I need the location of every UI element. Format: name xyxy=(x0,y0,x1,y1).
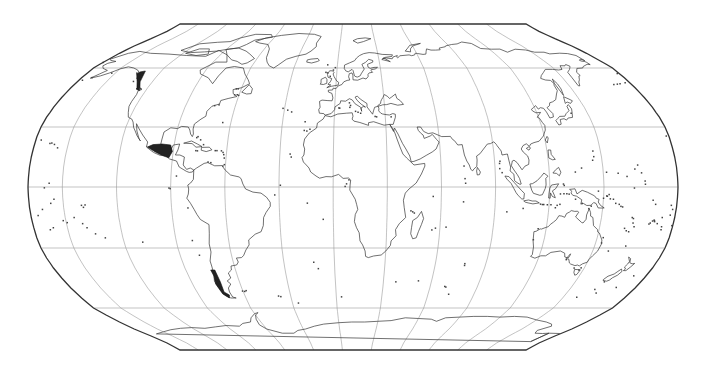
island-marker xyxy=(563,193,565,195)
island-marker xyxy=(613,199,615,201)
island-marker xyxy=(591,205,593,207)
coastline-ireland xyxy=(320,77,327,84)
island-marker xyxy=(566,259,568,261)
island-marker xyxy=(592,150,594,152)
island-marker xyxy=(214,105,216,107)
island-marker xyxy=(111,72,113,74)
island-marker xyxy=(661,226,663,228)
island-marker xyxy=(433,196,435,198)
coastline-new-zealand-south xyxy=(603,269,622,281)
highlight-southern-chile-coast xyxy=(211,270,230,298)
island-marker xyxy=(588,208,590,210)
island-marker xyxy=(604,281,606,283)
island-marker xyxy=(222,152,224,154)
island-marker xyxy=(54,144,56,146)
island-marker xyxy=(606,172,608,174)
island-marker xyxy=(73,217,75,219)
coastline-mindanao xyxy=(553,167,561,175)
island-marker xyxy=(216,150,218,152)
island-marker xyxy=(543,204,545,206)
island-marker xyxy=(349,107,351,109)
island-marker xyxy=(625,245,627,247)
island-marker xyxy=(274,194,276,196)
coastline-africa xyxy=(302,113,425,258)
island-marker xyxy=(624,228,626,230)
coastline-iceland xyxy=(307,59,320,64)
island-marker xyxy=(645,184,647,186)
island-marker xyxy=(196,137,198,139)
coastline-japan xyxy=(556,105,573,125)
island-marker xyxy=(346,183,348,185)
island-marker xyxy=(660,229,662,231)
island-marker xyxy=(560,193,562,195)
island-marker xyxy=(608,194,610,196)
coastline-australia xyxy=(531,209,602,266)
island-marker xyxy=(224,164,226,166)
island-marker xyxy=(619,204,621,206)
island-marker xyxy=(414,212,416,214)
island-marker xyxy=(327,72,329,74)
island-marker xyxy=(632,217,634,219)
coastline-hokkaido xyxy=(564,97,573,104)
coastline-eurasia xyxy=(319,42,591,184)
island-marker xyxy=(140,88,142,90)
island-marker xyxy=(666,135,668,137)
island-marker xyxy=(601,242,603,244)
island-marker xyxy=(613,84,615,86)
island-marker xyxy=(82,223,84,225)
island-marker xyxy=(619,83,621,85)
island-marker xyxy=(218,104,220,106)
island-marker xyxy=(222,122,224,124)
island-marker xyxy=(133,81,135,83)
island-marker xyxy=(199,255,201,257)
coastline-borneo xyxy=(530,173,548,195)
island-marker xyxy=(556,205,558,207)
island-marker xyxy=(83,207,85,209)
island-marker xyxy=(622,206,624,208)
world-map: World map (Robinson projection) with hig… xyxy=(0,0,702,371)
island-marker xyxy=(499,163,501,165)
island-marker xyxy=(573,267,575,269)
island-marker xyxy=(280,296,282,298)
island-marker xyxy=(291,111,293,113)
island-marker xyxy=(672,209,674,211)
island-marker xyxy=(608,250,610,252)
coastline-madagascar xyxy=(411,211,424,238)
island-marker xyxy=(550,204,552,206)
island-marker xyxy=(304,130,306,132)
island-marker xyxy=(445,286,447,288)
island-marker xyxy=(540,203,542,205)
island-marker xyxy=(376,116,378,118)
island-marker xyxy=(598,190,600,192)
island-marker xyxy=(555,207,557,209)
island-marker xyxy=(335,67,337,69)
island-marker xyxy=(309,129,311,131)
island-marker xyxy=(648,223,650,225)
island-marker xyxy=(499,161,501,163)
island-marker xyxy=(501,172,503,174)
island-marker xyxy=(244,291,246,293)
island-marker xyxy=(448,294,450,296)
island-marker xyxy=(395,281,397,283)
island-marker xyxy=(323,219,325,221)
highlight-british-columbia-coast xyxy=(137,71,146,91)
island-marker xyxy=(435,227,437,229)
island-marker xyxy=(657,223,659,225)
coastline-hainan xyxy=(526,147,530,150)
island-marker xyxy=(610,198,612,200)
island-marker xyxy=(278,295,280,297)
island-marker xyxy=(410,210,412,212)
island-marker xyxy=(564,185,566,187)
island-marker xyxy=(344,186,346,188)
island-marker xyxy=(91,77,93,79)
island-marker xyxy=(652,200,654,202)
island-marker xyxy=(53,227,55,229)
island-marker xyxy=(238,95,240,97)
island-marker xyxy=(506,211,508,213)
island-marker xyxy=(238,88,240,90)
island-marker xyxy=(86,227,88,229)
island-marker xyxy=(327,64,329,66)
island-marker xyxy=(463,165,465,167)
island-marker xyxy=(338,107,340,109)
island-marker xyxy=(533,239,535,241)
